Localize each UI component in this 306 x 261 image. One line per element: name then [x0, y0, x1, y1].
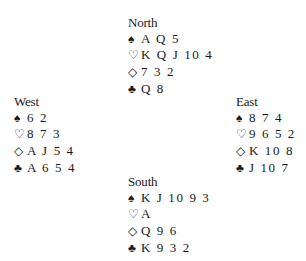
east-diamonds-cards: K 10 8 [249, 143, 294, 158]
east-hearts-cards: 9 6 5 2 [249, 126, 296, 141]
heart-icon: ♡ [128, 207, 141, 223]
west-hearts-cards: 8 7 3 [27, 126, 61, 141]
south-spades-cards: K J 10 9 3 [141, 190, 210, 205]
diamond-icon: ◇ [14, 144, 27, 160]
spade-icon: ♠ [128, 191, 141, 207]
spade-icon: ♠ [14, 111, 27, 127]
south-clubs: ♣K 9 3 2 [128, 240, 210, 257]
east-clubs: ♣J 10 7 [236, 160, 296, 177]
south-diamonds-cards: Q 9 6 [141, 223, 178, 238]
spade-icon: ♠ [236, 111, 249, 127]
diamond-icon: ◇ [128, 224, 141, 240]
diamond-icon: ◇ [236, 144, 249, 160]
north-diamonds: ◇7 3 2 [128, 64, 213, 81]
west-hand: West ♠6 2 ♡8 7 3 ◇A J 5 4 ♣A 6 5 4 [14, 94, 76, 177]
club-icon: ♣ [128, 241, 141, 257]
heart-icon: ♡ [14, 127, 27, 143]
north-clubs: ♣Q 8 [128, 81, 213, 98]
west-diamonds: ◇A J 5 4 [14, 143, 76, 160]
north-spades-cards: A Q 5 [141, 31, 180, 46]
east-hand: East ♠8 7 4 ♡9 6 5 2 ◇K 10 8 ♣J 10 7 [236, 94, 296, 177]
west-clubs-cards: A 6 5 4 [27, 160, 76, 175]
north-hearts: ♡K Q J 10 4 [128, 47, 213, 64]
east-spades-cards: 8 7 4 [249, 110, 283, 125]
south-spades: ♠K J 10 9 3 [128, 190, 210, 207]
west-clubs: ♣A 6 5 4 [14, 160, 76, 177]
north-clubs-cards: Q 8 [141, 81, 165, 96]
heart-icon: ♡ [128, 48, 141, 64]
south-diamonds: ◇Q 9 6 [128, 223, 210, 240]
east-spades: ♠8 7 4 [236, 110, 296, 127]
west-diamonds-cards: A J 5 4 [27, 143, 75, 158]
player-label-east: East [236, 94, 296, 110]
south-hand: South ♠K J 10 9 3 ♡A ◇Q 9 6 ♣K 9 3 2 [128, 174, 210, 257]
north-diamonds-cards: 7 3 2 [141, 64, 175, 79]
club-icon: ♣ [14, 161, 27, 177]
north-hearts-cards: K Q J 10 4 [141, 47, 213, 62]
west-spades-cards: 6 2 [27, 110, 48, 125]
east-diamonds: ◇K 10 8 [236, 143, 296, 160]
club-icon: ♣ [128, 82, 141, 98]
south-clubs-cards: K 9 3 2 [141, 240, 191, 255]
player-label-south: South [128, 174, 210, 190]
west-spades: ♠6 2 [14, 110, 76, 127]
player-label-north: North [128, 15, 213, 31]
east-clubs-cards: J 10 7 [249, 160, 290, 175]
east-hearts: ♡9 6 5 2 [236, 126, 296, 143]
heart-icon: ♡ [236, 127, 249, 143]
player-label-west: West [14, 94, 76, 110]
north-hand: North ♠A Q 5 ♡K Q J 10 4 ◇7 3 2 ♣Q 8 [128, 15, 213, 98]
north-spades: ♠A Q 5 [128, 31, 213, 48]
west-hearts: ♡8 7 3 [14, 126, 76, 143]
spade-icon: ♠ [128, 32, 141, 48]
south-hearts-cards: A [141, 206, 152, 221]
south-hearts: ♡A [128, 206, 210, 223]
diamond-icon: ◇ [128, 65, 141, 81]
club-icon: ♣ [236, 161, 249, 177]
